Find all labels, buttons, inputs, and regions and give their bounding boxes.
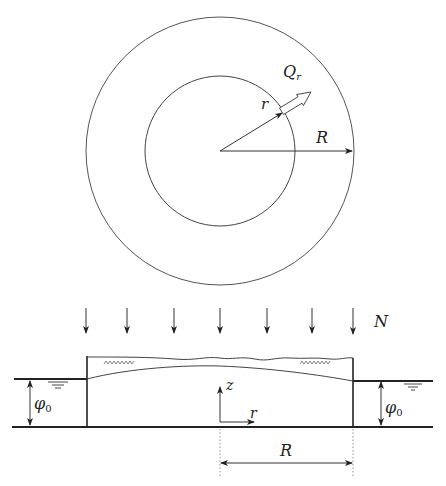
right-head-label: φ0 [385,400,403,418]
phreatic-surface [87,366,353,381]
right-head-label-main: φ [385,398,396,417]
ground-surface [87,357,353,360]
plan-view [86,17,354,285]
flux-label-sub: r [296,71,301,82]
diagram-canvas [0,0,446,486]
left-head-label-sub: 0 [45,403,51,414]
z-axis-label: z [226,378,233,392]
flux-label-main: Q [283,62,296,81]
recharge-arrows [86,308,353,334]
water-level-symbol-right-icon [404,384,422,390]
radius-dimension-label: R [280,443,292,459]
vegetation-left-icon [104,361,134,364]
water-level-symbol-left-icon [48,382,68,388]
left-head-label: φ0 [34,396,52,414]
left-head-label-main: φ [34,394,45,413]
outer-radius-label: R [316,130,328,146]
flux-label: Qr [283,64,301,82]
inner-radius-arrow [220,113,282,151]
flux-arrow-icon [280,92,312,115]
recharge-label: N [374,314,388,330]
inner-radius-label: r [261,97,268,112]
right-head-label-sub: 0 [396,407,402,418]
r-axis-label: r [250,406,257,420]
vegetation-right-icon [300,361,330,364]
cross-section [12,308,433,476]
